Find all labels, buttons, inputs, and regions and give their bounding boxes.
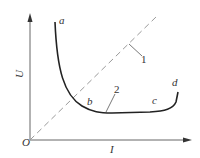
curve-2 [55,22,178,113]
leader-line-2 [106,94,115,112]
callout-2: 2 [114,83,120,95]
x-axis-arrow-icon [183,138,192,143]
point-label-d: d [172,76,178,88]
point-label-b: b [87,95,93,107]
u-i-characteristic-diagram: a b c d 1 2 O I U [0,0,200,158]
y-axis-arrow-icon [28,13,33,22]
y-axis [28,13,33,140]
dashed-line-1 [30,17,156,140]
y-axis-label: U [13,69,25,78]
callout-1: 1 [141,53,147,65]
x-axis [30,138,192,143]
x-axis-label: I [109,143,115,155]
point-label-a: a [59,14,65,26]
point-label-c: c [152,94,157,106]
origin-label: O [22,136,30,148]
